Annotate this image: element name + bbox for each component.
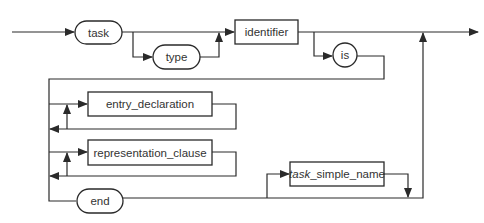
optional-task-simple-name-branch: task_simple_name [267,162,408,198]
keyword-task-label: task [88,27,109,39]
entry-declaration-loop: entry_declaration [49,92,236,129]
nonterminal-representation-clause-label: representation_clause [93,147,206,159]
keyword-type-label: type [166,51,188,63]
keyword-end: end [77,189,123,213]
nonterminal-identifier-label: identifier [245,26,289,38]
nonterminal-entry-declaration-label: entry_declaration [106,98,194,110]
keyword-end-label: end [90,195,109,207]
task-declaration-syntax-diagram: task type identifier is entry_declaratio… [0,0,484,223]
nonterminal-identifier: identifier [235,20,298,44]
keyword-is-label: is [341,49,350,61]
nonterminal-task-simple-name-label: task_simple_name [289,168,385,180]
optional-type-branch: type [133,32,219,69]
keyword-task: task [75,21,122,44]
representation-clause-loop: representation_clause [49,140,236,176]
